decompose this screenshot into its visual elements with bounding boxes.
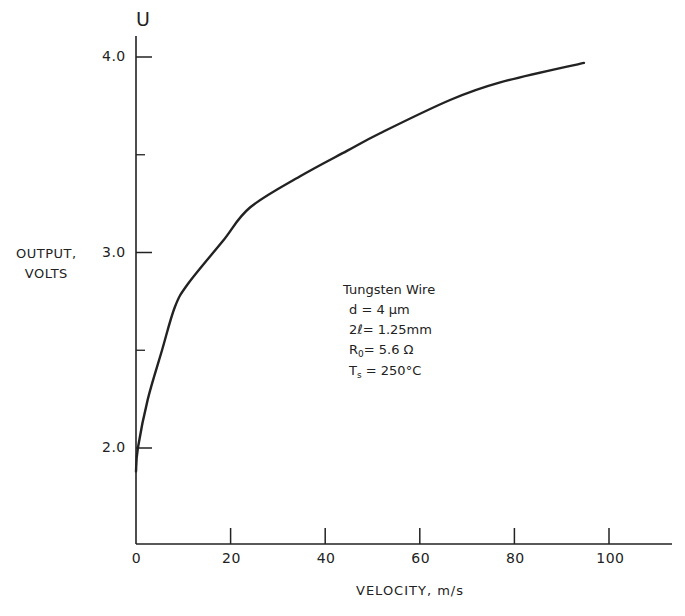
r0-symbol: R (349, 342, 358, 357)
annotation-diameter: d = 4 μm (343, 300, 435, 320)
annotation-title: Tungsten Wire (343, 280, 435, 300)
r0-subscript: 0 (358, 349, 364, 359)
annotation-length: 2ℓ= 1.25mm (343, 320, 435, 340)
annotation-temperature: Ts = 250°C (343, 361, 435, 382)
x-tick-label: 80 (506, 550, 525, 566)
ts-symbol: T (349, 363, 357, 378)
x-axis-label: VELOCITY, m/s (356, 583, 464, 598)
y-tick-label: 3.0 (102, 244, 126, 260)
x-tick-label: 40 (317, 550, 336, 566)
y-tick-label: 2.0 (102, 439, 126, 455)
y-axis-symbol: U (136, 8, 150, 30)
annotation-box: Tungsten Wire d = 4 μm 2ℓ= 1.25mm R0= 5.… (343, 280, 435, 382)
x-tick-label: 60 (411, 550, 430, 566)
y-axis-label-line1: OUTPUT, (16, 244, 77, 264)
annotation-resistance: R0= 5.6 Ω (343, 340, 435, 361)
ts-value: = 250°C (362, 363, 422, 378)
r0-value: = 5.6 Ω (364, 342, 414, 357)
y-tick-label: 4.0 (102, 48, 126, 64)
x-tick-label: 100 (596, 550, 624, 566)
x-tick-label: 20 (222, 550, 241, 566)
data-line-tungsten-wire (136, 63, 584, 472)
ts-subscript: s (357, 370, 362, 380)
y-axis-label: OUTPUT, VOLTS (16, 244, 77, 284)
y-axis-label-line2: VOLTS (16, 264, 77, 284)
x-tick-label: 0 (132, 550, 141, 566)
